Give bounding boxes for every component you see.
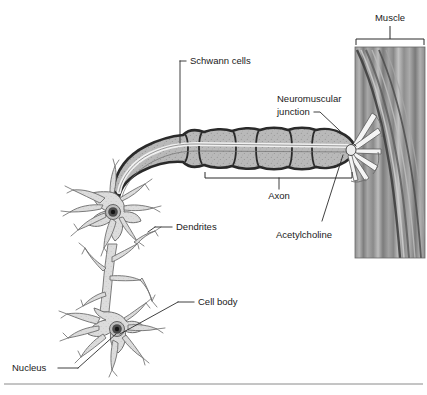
label-acetylcholine: Acetylcholine: [276, 229, 332, 240]
label-neuromuscular-junction-line2: junction: [276, 106, 310, 117]
label-cell-body: Cell body: [198, 296, 238, 307]
figure-canvas: Muscle: [0, 0, 427, 395]
muscle-bracket: [356, 26, 424, 45]
label-nucleus: Nucleus: [12, 362, 47, 373]
label-axon: Axon: [268, 190, 290, 201]
dendrite-trunk: [76, 227, 161, 312]
label-neuromuscular-junction-line1: Neuromuscular: [277, 93, 341, 104]
label-muscle: Muscle: [375, 12, 405, 23]
neuron-diagram: Muscle: [0, 0, 427, 395]
label-dendrites: Dendrites: [176, 221, 217, 232]
myelinated-axon: [113, 128, 354, 197]
label-schwann-cells: Schwann cells: [190, 55, 251, 66]
axon-bracket: [205, 172, 352, 178]
upper-neuron-soma: [61, 159, 161, 256]
